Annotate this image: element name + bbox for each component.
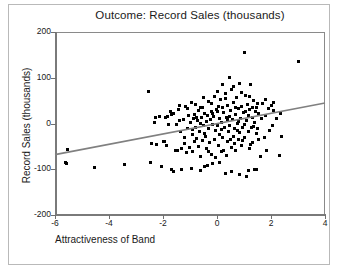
x-tick-label: -6 (40, 218, 70, 228)
x-tick-label: 0 (202, 218, 232, 228)
x-tick-mark (217, 215, 218, 219)
x-tick-mark (55, 215, 56, 219)
x-tick-label: -2 (148, 218, 178, 228)
chart-title: Outcome: Record Sales (thousands) (55, 9, 325, 21)
y-tick-label: -100 (34, 163, 51, 173)
x-tick-label: 2 (256, 218, 286, 228)
x-tick-mark (163, 215, 164, 219)
y-axis-title: Record Sales (thousands) (21, 46, 32, 206)
y-tick-mark (51, 124, 56, 125)
x-tick-label: 4 (310, 218, 340, 228)
x-tick-mark (325, 215, 326, 219)
regression-line (55, 32, 325, 215)
scatter-plot-figure: Outcome: Record Sales (thousands) 200100… (0, 0, 342, 274)
x-tick-label: -4 (94, 218, 124, 228)
y-tick-mark (51, 78, 56, 79)
x-axis-title: Attractiveness of Band (55, 234, 235, 245)
x-tick-mark (271, 215, 272, 219)
x-tick-mark (109, 215, 110, 219)
y-tick-mark (51, 169, 56, 170)
y-tick-label: 100 (37, 72, 51, 82)
y-tick-label: 0 (46, 118, 51, 128)
y-tick-label: 200 (37, 26, 51, 36)
y-tick-mark (51, 32, 56, 33)
